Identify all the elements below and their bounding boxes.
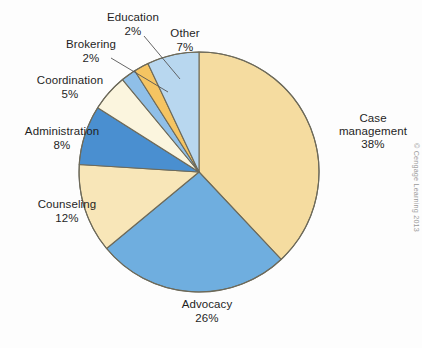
pie-chart-figure: Education 2% Other 7% Brokering 2% Coord… — [0, 0, 422, 348]
slice-label-advocacy: Advocacy 26% — [152, 298, 262, 325]
copyright-notice: © Cengage Learning 2013 — [412, 143, 421, 232]
slice-label-administration-name: Administration — [0, 125, 130, 139]
slice-label-counseling-value: 12% — [6, 212, 128, 226]
slice-label-case-management-name-line2: management — [330, 125, 416, 138]
slice-label-advocacy-name: Advocacy — [152, 298, 262, 312]
slice-label-other-name: Other — [137, 27, 233, 41]
slice-label-case-management-value: 38% — [330, 138, 416, 151]
slice-label-coordination-value: 5% — [6, 88, 134, 102]
slice-label-advocacy-value: 26% — [152, 312, 262, 326]
slice-label-other: Other 7% — [137, 27, 233, 54]
slice-label-administration: Administration 8% — [0, 125, 130, 152]
slice-label-administration-value: 8% — [0, 139, 130, 153]
slice-label-case-management: Case management 38% — [330, 112, 416, 151]
slice-label-education-name: Education — [74, 11, 192, 25]
slice-label-counseling: Counseling 12% — [6, 198, 128, 225]
slice-label-brokering-value: 2% — [35, 52, 147, 66]
slice-label-case-management-name-line1: Case — [330, 112, 416, 125]
slice-label-brokering: Brokering 2% — [35, 38, 147, 65]
slice-label-brokering-name: Brokering — [35, 38, 147, 52]
slice-label-counseling-name: Counseling — [6, 198, 128, 212]
slice-label-coordination-name: Coordination — [6, 74, 134, 88]
slice-label-coordination: Coordination 5% — [6, 74, 134, 101]
slice-label-other-value: 7% — [137, 41, 233, 55]
